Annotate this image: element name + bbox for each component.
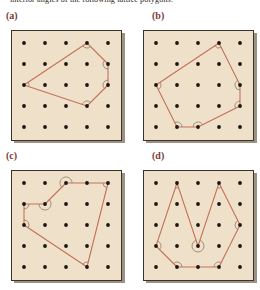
lattice-dot — [85, 41, 89, 45]
lattice-dot — [106, 223, 110, 227]
lattice-panel-a — [11, 30, 122, 141]
panel-b-shadow — [254, 33, 257, 143]
lattice-dot — [238, 202, 242, 206]
lattice-dot — [154, 104, 158, 108]
panel-c-shadow — [122, 173, 125, 283]
lattice-dot — [85, 181, 89, 185]
lattice-dot — [154, 244, 158, 248]
lattice-dot — [154, 41, 158, 45]
figure-page: interior angles of the following lattice… — [0, 0, 260, 290]
lattice-dot — [217, 125, 221, 129]
lattice-dot — [22, 223, 26, 227]
lattice-dot — [64, 125, 68, 129]
lattice-dot — [106, 181, 110, 185]
lattice-dot — [175, 83, 179, 87]
lattice-dot — [238, 244, 242, 248]
lattice-dot — [238, 125, 242, 129]
lattice-dot — [238, 181, 242, 185]
lattice-dot — [217, 244, 221, 248]
lattice-dot — [43, 223, 47, 227]
lattice-dot — [175, 62, 179, 66]
lattice-dot — [238, 83, 242, 87]
lattice-svg-c — [12, 171, 120, 279]
lattice-svg-d — [144, 171, 252, 279]
lattice-svg-a — [12, 31, 120, 139]
lattice-dot — [64, 83, 68, 87]
lattice-dot — [217, 202, 221, 206]
lattice-dot — [64, 223, 68, 227]
lattice-dot — [196, 104, 200, 108]
lattice-dot — [85, 265, 89, 269]
lattice-dot — [196, 244, 200, 248]
interior-angle-arc — [103, 183, 107, 188]
lattice-dot — [85, 83, 89, 87]
lattice-dot — [22, 265, 26, 269]
lattice-dot — [217, 83, 221, 87]
lattice-dot — [196, 83, 200, 87]
panel-a-shadow — [122, 33, 125, 143]
lattice-dot — [106, 104, 110, 108]
lattice-dot — [43, 62, 47, 66]
lattice-dot — [22, 104, 26, 108]
lattice-dot — [196, 223, 200, 227]
interior-angle-arc — [217, 187, 221, 188]
lattice-dot — [238, 223, 242, 227]
lattice-dot — [85, 125, 89, 129]
panel-label-c: (c) — [6, 150, 17, 161]
lattice-dot — [43, 83, 47, 87]
lattice-dot — [175, 265, 179, 269]
lattice-dot — [43, 202, 47, 206]
lattice-dot — [43, 125, 47, 129]
lattice-dot — [22, 181, 26, 185]
lattice-dot — [106, 62, 110, 66]
lattice-dot — [154, 202, 158, 206]
lattice-dot — [217, 41, 221, 45]
lattice-dot — [175, 125, 179, 129]
lattice-dot — [154, 83, 158, 87]
panel-label-a: (a) — [6, 10, 18, 21]
lattice-dot — [238, 104, 242, 108]
lattice-dot — [43, 265, 47, 269]
lattice-dot — [22, 41, 26, 45]
lattice-dot — [154, 181, 158, 185]
lattice-dot — [85, 62, 89, 66]
lattice-dot — [106, 125, 110, 129]
lattice-dot — [196, 62, 200, 66]
lattice-svg-b — [144, 31, 252, 139]
lattice-dot — [238, 62, 242, 66]
lattice-dot — [22, 83, 26, 87]
lattice-dot — [154, 223, 158, 227]
lattice-dot — [106, 83, 110, 87]
panel-label-d: (d) — [152, 150, 164, 161]
lattice-dot — [196, 181, 200, 185]
lattice-dot — [238, 265, 242, 269]
panel-d-shadow — [254, 173, 257, 283]
lattice-dot — [85, 223, 89, 227]
lattice-dot — [22, 125, 26, 129]
lattice-dot — [175, 181, 179, 185]
lattice-dot — [196, 41, 200, 45]
polygon-a — [24, 43, 108, 106]
lattice-dot — [43, 104, 47, 108]
lattice-dot — [175, 244, 179, 248]
lattice-dot — [196, 125, 200, 129]
lattice-dot — [154, 62, 158, 66]
lattice-dot — [196, 265, 200, 269]
lattice-dot — [217, 265, 221, 269]
lattice-dot — [64, 41, 68, 45]
panel-label-b: (b) — [152, 10, 164, 21]
lattice-dot — [154, 265, 158, 269]
lattice-panel-c — [11, 170, 122, 281]
lattice-dot — [175, 41, 179, 45]
lattice-dot — [22, 202, 26, 206]
lattice-dot — [175, 104, 179, 108]
lattice-dot — [106, 41, 110, 45]
lattice-dot — [64, 181, 68, 185]
lattice-dot — [43, 41, 47, 45]
lattice-dot — [64, 104, 68, 108]
interior-angle-arc — [235, 221, 238, 230]
lattice-dot — [106, 265, 110, 269]
lattice-dot — [85, 202, 89, 206]
lattice-dot — [22, 62, 26, 66]
lattice-dot — [85, 104, 89, 108]
